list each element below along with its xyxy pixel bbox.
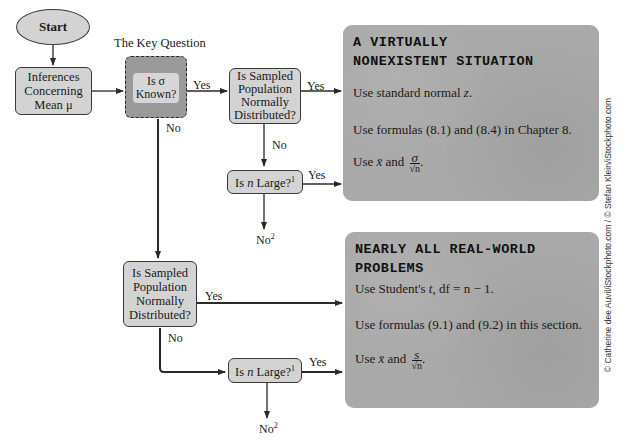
panel1-line3-end: . [420, 154, 423, 169]
panel2-fraction: s√n [412, 350, 423, 371]
n-large-question-top: Is n Large?1 [227, 170, 303, 194]
start-node: Start [16, 9, 90, 45]
n-large-question-bottom: Is n Large?1 [228, 358, 302, 383]
panel2-title-line1: NEARLY ALL REAL-WORLD [355, 240, 589, 259]
normal-distribution-question-bottom: Is Sampled Population Normally Distribut… [123, 261, 197, 327]
panel2-line3-end: . [422, 351, 425, 366]
n-large-bottom-footnote: 1 [291, 364, 295, 373]
panel-real-world-problems: NEARLY ALL REAL-WORLD PROBLEMS Use Stude… [345, 232, 599, 408]
panel1-frac-den: √n [410, 164, 421, 174]
panel1-line1-end: . [469, 85, 472, 100]
n-large-bottom-no-label: No2 [259, 421, 278, 437]
panel2-formulas: Use formulas (9.1) and (9.2) in this sec… [355, 317, 582, 333]
inference-line3: Mean μ [24, 98, 82, 112]
panel1-standard-normal: Use standard normal z. [353, 85, 472, 101]
no2-text-bottom: No [259, 422, 274, 436]
n-large-bottom-suffix: Large? [253, 365, 291, 379]
no2-footnote: 2 [271, 232, 275, 241]
key-yes-label: Yes [193, 78, 210, 93]
normal-top-line4: Distributed? [234, 109, 296, 122]
panel1-line3-mid: and [382, 154, 407, 169]
panel2-line1-end: , df = n − 1. [432, 281, 493, 296]
key-question-title: The Key Question [114, 36, 206, 51]
inference-line2: Concerning [24, 84, 82, 98]
n-large-bottom-yes-label: Yes [309, 355, 326, 370]
normal-bottom-line3: Normally [129, 294, 191, 308]
panel1-line3-prefix: Use [353, 154, 376, 169]
panel2-student-t: Use Student's t, df = n − 1. [355, 281, 494, 297]
normal-bottom-no-label: No [168, 331, 183, 346]
panel1-fraction: σ√n [410, 153, 421, 174]
key-no-label: No [166, 121, 181, 136]
photo-credit-text: © Catherine dee Auvil/iStockphoto.com / … [603, 98, 613, 372]
n-large-top-footnote: 1 [291, 175, 295, 184]
panel1-formulas: Use formulas (8.1) and (8.4) in Chapter … [353, 122, 572, 138]
n-large-top-yes-label: Yes [308, 168, 325, 183]
normal-top-yes-label: Yes [307, 79, 324, 94]
panel1-line1-text: Use standard normal [353, 85, 464, 100]
sigma-known-question: Is σ Known? [133, 73, 179, 103]
n-large-bottom-prefix: Is [235, 365, 247, 379]
start-label: Start [39, 19, 67, 35]
panel2-line1-text: Use Student's [355, 281, 429, 296]
normal-bottom-line1: Is Sampled [129, 266, 191, 280]
normal-top-no-label: No [272, 138, 287, 153]
n-large-top-no-label: No2 [256, 232, 275, 248]
inferences-mean-node: Inferences Concerning Mean μ [15, 67, 92, 115]
key-question-line2: Known? [136, 88, 177, 101]
normal-distribution-question-top: Is Sampled Population Normally Distribut… [229, 68, 301, 124]
inference-line1: Inferences [24, 70, 82, 84]
panel-virtually-nonexistent: A VIRTUALLY NONEXISTENT SITUATION Use st… [343, 25, 599, 201]
panel2-frac-den: √n [412, 361, 423, 371]
normal-bottom-line2: Population [129, 280, 191, 294]
normal-bottom-yes-label: Yes [205, 289, 222, 304]
panel2-statistics: Use x̄ and s√n. [355, 350, 425, 371]
n-large-top-prefix: Is [235, 177, 247, 191]
panel2-line3-prefix: Use [355, 351, 378, 366]
panel1-title-line2: NONEXISTENT SITUATION [353, 52, 589, 71]
n-large-top-suffix: Large? [253, 177, 291, 191]
normal-bottom-line4: Distributed? [129, 308, 191, 322]
no2-text: No [256, 233, 271, 247]
key-question-node: Is σ Known? [125, 56, 187, 118]
no2-footnote-bottom: 2 [274, 421, 278, 430]
panel1-title-line1: A VIRTUALLY [353, 33, 589, 52]
panel2-line3-mid: and [384, 351, 409, 366]
panel2-title-line2: PROBLEMS [355, 259, 589, 278]
panel1-statistics: Use x̄ and σ√n. [353, 153, 423, 174]
